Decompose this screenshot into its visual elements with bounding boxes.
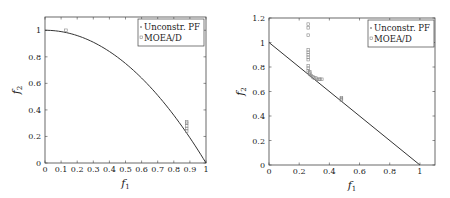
legend-label-moead: MOEA/D	[374, 34, 412, 44]
y-tick-label: 1	[260, 39, 265, 48]
legend: Unconstr. PFMOEA/D	[368, 20, 434, 47]
x-tick-label: 0.4	[323, 167, 336, 176]
legend-label-moead: MOEA/D	[144, 33, 182, 43]
y-axis-label: f2	[10, 86, 24, 96]
chart-right: 00.20.40.60.8100.20.40.60.811.2f1f2Uncon…	[234, 14, 435, 193]
y-tick-label: 0.8	[252, 63, 265, 72]
x-tick-label: 0.5	[119, 165, 132, 174]
chart-left: 00.10.20.30.40.50.60.70.80.9100.20.40.60…	[10, 17, 209, 191]
x-axis-label: f1	[347, 179, 357, 193]
x-tick-label: 0.6	[353, 167, 366, 176]
x-tick-label: 0.9	[184, 165, 197, 174]
x-tick-label: 0.6	[135, 165, 148, 174]
x-tick-label: 0.3	[87, 165, 100, 174]
y-tick-label: 0.8	[28, 53, 41, 62]
x-tick-label: 0.2	[71, 165, 84, 174]
x-tick-label: 1	[417, 167, 422, 176]
figure: 00.10.20.30.40.50.60.70.80.9100.20.40.60…	[0, 0, 450, 198]
x-tick-label: 0	[42, 165, 47, 174]
y-tick-label: 0	[36, 159, 41, 168]
y-tick-label: 0.6	[252, 88, 265, 97]
legend-label-pf: Unconstr. PF	[144, 22, 200, 32]
x-tick-label: 0	[266, 167, 271, 176]
y-tick-label: 0.2	[28, 132, 41, 141]
x-tick-label: 1	[203, 165, 208, 174]
y-tick-label: 0	[260, 161, 265, 170]
x-tick-label: 0.2	[293, 167, 306, 176]
y-tick-label: 0.2	[252, 137, 265, 146]
x-tick-label: 0.4	[103, 165, 116, 174]
x-tick-label: 0.8	[383, 167, 396, 176]
x-tick-label: 0.1	[55, 165, 68, 174]
y-axis-label: f2	[234, 87, 248, 97]
y-tick-label: 0.4	[252, 112, 265, 121]
legend: Unconstr. PFMOEA/D	[138, 19, 204, 46]
y-tick-label: 0.6	[28, 79, 41, 88]
legend-label-pf: Unconstr. PF	[374, 23, 430, 33]
x-tick-label: 0.8	[167, 165, 180, 174]
y-tick-label: 1	[36, 26, 41, 35]
y-tick-label: 0.4	[28, 106, 41, 115]
x-tick-label: 0.7	[151, 165, 164, 174]
y-tick-label: 1.2	[252, 14, 265, 23]
x-axis-label: f1	[120, 177, 130, 191]
